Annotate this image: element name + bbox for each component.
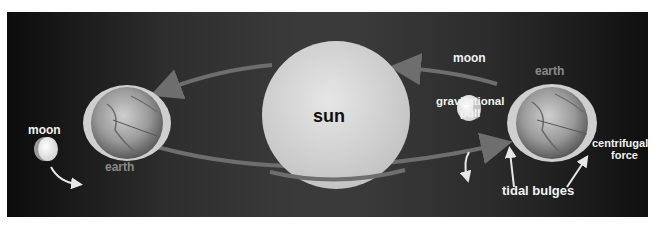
tidal-bulges-label: tidal bulges <box>502 184 574 197</box>
earth-right-icon <box>507 84 597 162</box>
gravitational-pull-arrow <box>465 152 469 177</box>
sun-label: sun <box>313 107 345 125</box>
moon-left-orbit-arrow <box>51 167 77 184</box>
centrifugal-force-label-line1: centrifugal <box>592 138 648 149</box>
gravitational-pull-label-line2: pull <box>460 108 480 120</box>
tidal-bulge-arrow-left <box>510 152 514 187</box>
centrifugal-force-label-line2: force <box>611 150 638 161</box>
moon-left-label: moon <box>28 124 61 136</box>
earth-left-icon <box>83 85 171 161</box>
earth-left-label: earth <box>105 161 134 173</box>
moon-right-label: moon <box>453 52 486 64</box>
gravitational-pull-label-line1: gravitational <box>436 96 504 108</box>
moon-left-icon <box>34 137 58 161</box>
earth-right-label: earth <box>535 65 564 77</box>
diagram-panel: sun moon earth moon earth gravitational … <box>7 12 648 217</box>
